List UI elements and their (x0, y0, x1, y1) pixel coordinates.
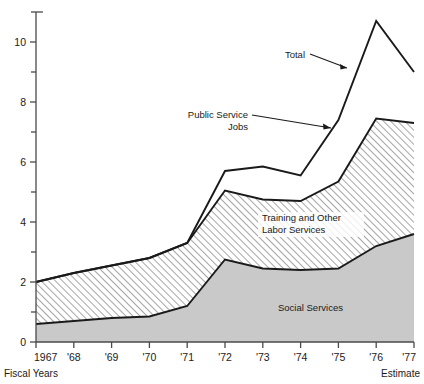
annotation-social-services-label: Social Services (278, 302, 343, 313)
x-tick-label: '68 (67, 351, 81, 363)
x-tick-label: '75 (332, 351, 346, 363)
y-tick-label: 0 (20, 336, 26, 348)
x-tick-label: '73 (256, 351, 270, 363)
x-tick-label: '77 (402, 351, 416, 363)
stacked-area-chart: 0246810 1967'68'69'70'71'72'73'74'75'76'… (0, 0, 424, 384)
annotation-total-label: Total (285, 49, 305, 60)
annotation-public-service-jobs-label-line2: Jobs (228, 121, 248, 132)
x-tick-label: '70 (143, 351, 157, 363)
estimate-label: Estimate (381, 368, 420, 379)
annotation-training-label-line2: Labor Services (262, 224, 326, 235)
annotation-social-services: Social Services (278, 302, 343, 313)
annotation-training-label-line1: Training and Other (262, 212, 341, 223)
x-tick-label: '69 (105, 351, 119, 363)
x-tick-label: '71 (180, 351, 194, 363)
x-tick-label: '72 (218, 351, 232, 363)
annotation-public-service-jobs-label-line1: Public Service (188, 109, 248, 120)
x-tick-label: '74 (294, 351, 308, 363)
y-tick-label: 2 (20, 276, 26, 288)
y-tick-label: 4 (20, 216, 26, 228)
x-tick-label: '76 (369, 351, 383, 363)
y-tick-label: 6 (20, 156, 26, 168)
x-tick-label: 1967 (34, 351, 58, 363)
annotation-training-and-other-labor-services: Training and Other Labor Services (258, 212, 364, 237)
fiscal-years-label: Fiscal Years (4, 368, 58, 379)
y-tick-label: 10 (14, 36, 26, 48)
y-tick-label: 8 (20, 96, 26, 108)
chart-container: 0246810 1967'68'69'70'71'72'73'74'75'76'… (0, 0, 424, 384)
